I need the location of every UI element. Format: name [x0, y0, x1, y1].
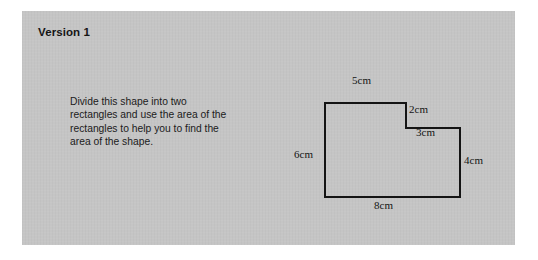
instruction-line-1: Divide this shape into two [70, 95, 260, 108]
dimension-label-step-vertical: 2cm [409, 104, 428, 115]
dimension-label-top: 5cm [352, 75, 371, 86]
dimension-label-bottom: 8cm [374, 200, 393, 211]
dimension-label-left: 6cm [294, 149, 313, 160]
instruction-line-3: rectangles to help you to find the [70, 122, 260, 135]
l-shaped-polygon [325, 103, 460, 197]
content-panel: Version 1 Divide this shape into two rec… [22, 11, 515, 245]
dimension-label-right: 4cm [464, 155, 483, 166]
instruction-line-2: rectangles and use the area of the [70, 108, 260, 121]
dimension-label-step-horizontal: 3cm [416, 127, 435, 138]
page-title: Version 1 [38, 26, 90, 38]
worksheet-page: Version 1 Divide this shape into two rec… [0, 0, 538, 260]
instruction-text: Divide this shape into two rectangles an… [70, 95, 260, 149]
instruction-line-4: area of the shape. [70, 135, 260, 148]
shape-figure: 5cm 2cm 3cm 4cm 8cm 6cm [270, 66, 502, 226]
